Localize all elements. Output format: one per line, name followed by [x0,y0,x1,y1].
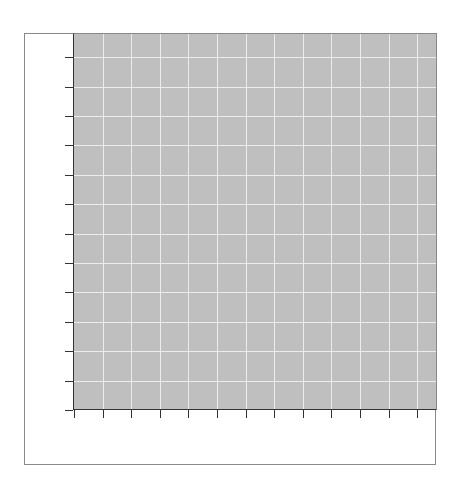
vertical-gridline [331,34,332,409]
y-axis-tick [65,322,73,323]
vertical-gridline [360,34,361,409]
horizontal-gridline [74,234,436,235]
x-axis-tick [417,410,418,418]
y-axis-tick [65,116,73,117]
vertical-gridline [103,34,104,409]
y-axis-tick [65,292,73,293]
horizontal-gridline [74,175,436,176]
horizontal-gridline [74,116,436,117]
vertical-gridline [274,34,275,409]
horizontal-gridline [74,263,436,264]
vertical-gridline [246,34,247,409]
y-axis-tick [65,410,73,411]
x-axis-tick [131,410,132,418]
vertical-gridline [188,34,189,409]
y-axis-tick [65,351,73,352]
vertical-gridline [303,34,304,409]
y-axis-tick [65,263,73,264]
horizontal-gridline [74,322,436,323]
horizontal-gridline [74,145,436,146]
x-axis-tick [103,410,104,418]
horizontal-gridline [74,57,436,58]
vertical-gridline [131,34,132,409]
vertical-gridline [160,34,161,409]
horizontal-gridline [74,381,436,382]
x-axis-tick [160,410,161,418]
vertical-gridline [417,34,418,409]
y-axis-tick [65,145,73,146]
y-axis-tick [65,381,73,382]
horizontal-gridline [74,87,436,88]
x-axis-tick [217,410,218,418]
horizontal-gridline [74,351,436,352]
vertical-gridline [389,34,390,409]
y-axis-tick [65,87,73,88]
vertical-gridline [217,34,218,409]
horizontal-gridline [74,292,436,293]
y-axis-tick [65,204,73,205]
y-axis-tick [65,234,73,235]
x-axis-tick [274,410,275,418]
x-axis-tick [331,410,332,418]
x-axis-tick [74,410,75,418]
y-axis-tick [65,57,73,58]
plot-area [73,33,437,410]
horizontal-gridline [74,204,436,205]
x-axis-tick [360,410,361,418]
x-axis-tick [303,410,304,418]
x-axis-tick [246,410,247,418]
x-axis-tick [389,410,390,418]
x-axis-tick [188,410,189,418]
y-axis-tick [65,175,73,176]
